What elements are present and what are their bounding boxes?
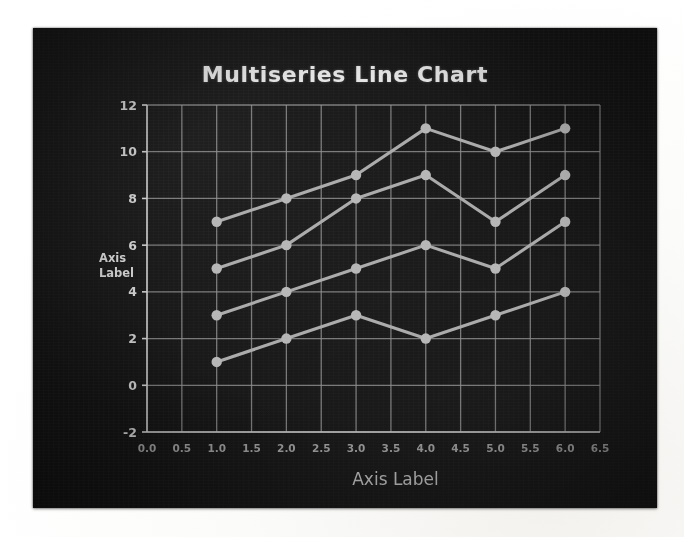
- x-tick-label: 4.0: [416, 442, 435, 454]
- series-point-2-4: [421, 170, 431, 180]
- series-point-2-3: [351, 193, 361, 203]
- series-point-3-3: [351, 263, 361, 273]
- y-tick-label: 12: [120, 98, 137, 113]
- x-tick-label: 4.5: [451, 442, 470, 454]
- x-tick-label: 5.5: [521, 442, 540, 454]
- x-axis-label: Axis Label: [352, 469, 439, 489]
- x-tick-label: 5.0: [486, 442, 505, 454]
- series-point-1-5: [490, 147, 500, 157]
- series-point-1-1: [211, 217, 221, 227]
- series-point-4-3: [351, 310, 361, 320]
- series-point-1-4: [421, 123, 431, 133]
- x-tick-label: 3.0: [347, 442, 366, 454]
- series-point-2-5: [490, 217, 500, 227]
- x-tick-label: 2.0: [277, 442, 296, 454]
- series-point-2-6: [560, 170, 570, 180]
- series-point-3-6: [560, 217, 570, 227]
- series-point-4-6: [560, 287, 570, 297]
- series-point-2-2: [281, 240, 291, 250]
- y-tick-label: 10: [120, 144, 138, 159]
- x-tick-label: 3.5: [382, 442, 401, 454]
- series-point-1-6: [560, 123, 570, 133]
- x-tick-label: 1.5: [242, 442, 261, 454]
- x-tick-label: 0.5: [173, 442, 192, 454]
- x-tick-label: 1.0: [207, 442, 226, 454]
- y-tick-label: 4: [128, 284, 137, 299]
- x-tick-label: 2.5: [312, 442, 331, 454]
- y-tick-label: -2: [123, 425, 137, 440]
- series-point-1-2: [281, 193, 291, 203]
- series-point-3-2: [281, 287, 291, 297]
- x-tick-label: 6.5: [591, 442, 610, 454]
- line-chart: -20246810120.00.51.01.52.02.53.03.54.04.…: [33, 28, 657, 508]
- x-tick-label: 0.0: [138, 442, 157, 454]
- y-axis-label-line-1: Axis: [99, 251, 126, 265]
- y-tick-label: 2: [128, 331, 137, 346]
- series-point-4-1: [211, 357, 221, 367]
- series-point-4-2: [281, 333, 291, 343]
- y-tick-label: 6: [128, 238, 137, 253]
- page-background: Multiseries Line Chart -20246810120.00.5…: [0, 0, 684, 537]
- photographed-screen: Multiseries Line Chart -20246810120.00.5…: [33, 28, 657, 508]
- y-axis-label-line-2: Label: [99, 266, 134, 280]
- tick-label-layer: -20246810120.00.51.01.52.02.53.03.54.04.…: [120, 98, 610, 455]
- axis-layer: [142, 105, 600, 432]
- x-tick-label: 6.0: [556, 442, 575, 454]
- series-point-2-1: [211, 263, 221, 273]
- y-tick-label: 8: [128, 191, 137, 206]
- series-point-3-4: [421, 240, 431, 250]
- y-tick-label: 0: [128, 378, 137, 393]
- series-point-4-4: [421, 333, 431, 343]
- series-point-3-5: [490, 263, 500, 273]
- series-point-3-1: [211, 310, 221, 320]
- series-point-1-3: [351, 170, 361, 180]
- series-point-4-5: [490, 310, 500, 320]
